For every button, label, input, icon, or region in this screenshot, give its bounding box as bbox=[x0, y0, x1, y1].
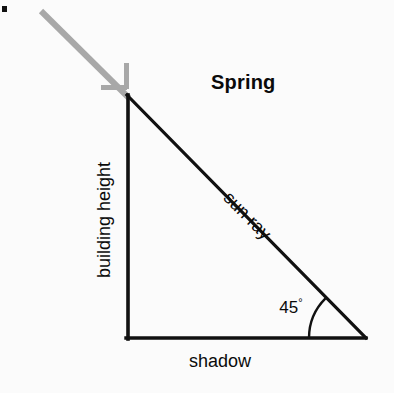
shadow-label: shadow bbox=[189, 351, 251, 372]
diagram-svg bbox=[0, 0, 394, 393]
sun-arrow-group bbox=[41, 11, 129, 98]
building-height-label: building height bbox=[94, 162, 115, 278]
diagram-canvas: Spring building height sun ray shadow 45… bbox=[0, 0, 394, 393]
sun-arrow-shaft bbox=[41, 11, 129, 98]
angle-label: 45° bbox=[279, 298, 302, 318]
angle-arc bbox=[309, 298, 326, 338]
angle-value: 45 bbox=[279, 298, 298, 317]
page-title: Spring bbox=[211, 71, 276, 94]
degree-symbol: ° bbox=[298, 296, 302, 308]
